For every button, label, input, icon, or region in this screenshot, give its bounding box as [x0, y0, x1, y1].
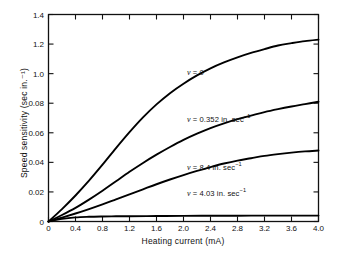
curve-label-4: v = 4.03 in. sec−1: [187, 189, 246, 198]
curve-1: [49, 40, 319, 222]
x-tick-label: 3.6: [277, 224, 307, 233]
x-tick-label: 4.0: [304, 224, 334, 233]
curve-2: [49, 102, 319, 222]
curve-label-3: v = 8.4 in. sec−1: [187, 162, 242, 171]
x-tick-label: 0: [34, 224, 64, 233]
x-tick-label: 2.0: [169, 224, 199, 233]
data-curves: [49, 40, 319, 222]
x-tick-label: 2.4: [196, 224, 226, 233]
plot-area: [0, 0, 338, 254]
x-tick-label: 0.4: [61, 224, 91, 233]
x-axis-title: Heating current (mA): [48, 236, 318, 246]
x-tick-label: 1.2: [115, 224, 145, 233]
x-tick-label: 0.8: [88, 224, 118, 233]
curve-label-1: v = 0: [187, 68, 204, 77]
curve-label-2: v = 0.352 in. sec−1: [187, 115, 251, 124]
x-tick-label: 1.6: [142, 224, 172, 233]
x-tick-label: 3.2: [250, 224, 280, 233]
x-tick-label: 2.8: [223, 224, 253, 233]
x-axis-title-text: Heating current (mA): [142, 236, 225, 246]
chart-figure: Speed sensitivity (sec in.⁻¹) 00.020.040…: [0, 0, 338, 254]
curve-3: [49, 151, 319, 222]
